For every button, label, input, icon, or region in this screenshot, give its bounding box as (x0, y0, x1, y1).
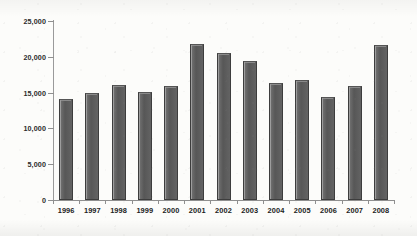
bar-2005 (295, 80, 309, 200)
y-axis-tick (48, 57, 54, 58)
x-axis-tick (132, 200, 133, 204)
y-axis-tick-label: 20,000 (23, 52, 46, 61)
x-axis-tick-label-2004: 2004 (268, 206, 285, 215)
x-axis-tick (53, 200, 54, 204)
x-axis-tick (394, 200, 395, 204)
bar-1997 (85, 93, 99, 200)
x-axis-tick-label-2005: 2005 (294, 206, 311, 215)
x-axis-tick (263, 200, 264, 204)
x-axis-tick (237, 200, 238, 204)
bar-2000 (164, 86, 178, 200)
bar-2002 (217, 53, 231, 200)
bar-1999 (138, 92, 152, 200)
x-axis-tick-label-2008: 2008 (372, 206, 389, 215)
y-axis-tick-label: 15,000 (23, 88, 46, 97)
x-axis-tick-label-1999: 1999 (136, 206, 153, 215)
x-axis-tick (368, 200, 369, 204)
x-axis-tick-label-2006: 2006 (320, 206, 337, 215)
bar-1998 (112, 85, 126, 200)
x-axis-tick (105, 200, 106, 204)
y-axis-tick-label: 5,000 (28, 160, 47, 169)
x-axis-tick-label-2007: 2007 (346, 206, 363, 215)
y-axis-tick (48, 128, 54, 129)
bar-2004 (269, 83, 283, 200)
y-axis-tick-label: 0 (42, 196, 46, 205)
bar-2003 (243, 61, 257, 200)
bar-2006 (321, 97, 335, 200)
y-axis-tick (48, 93, 54, 94)
x-axis-tick (79, 200, 80, 204)
x-axis-tick-label-2002: 2002 (215, 206, 232, 215)
bar-2007 (348, 86, 362, 200)
bar-2001 (190, 44, 204, 200)
x-axis-tick (342, 200, 343, 204)
bar-2008 (374, 45, 388, 200)
y-axis-tick-label: 25,000 (23, 17, 46, 26)
y-axis-line (53, 20, 54, 201)
bar-chart: 05,00010,00015,00020,00025,000 199619971… (0, 0, 417, 236)
x-axis-tick (158, 200, 159, 204)
x-axis-tick-label-1998: 1998 (110, 206, 127, 215)
y-axis-tick (48, 164, 54, 165)
x-axis-tick-label-2001: 2001 (189, 206, 206, 215)
bar-1996 (59, 99, 73, 200)
x-axis-tick-label-1997: 1997 (84, 206, 101, 215)
x-axis-tick-label-2003: 2003 (241, 206, 258, 215)
x-axis-tick (315, 200, 316, 204)
y-axis-tick-label: 10,000 (23, 124, 46, 133)
x-axis-tick-label-1996: 1996 (58, 206, 75, 215)
y-axis-tick (48, 21, 54, 22)
x-axis-tick-label-2000: 2000 (163, 206, 180, 215)
x-axis-tick (184, 200, 185, 204)
x-axis-tick (289, 200, 290, 204)
x-axis-tick (210, 200, 211, 204)
